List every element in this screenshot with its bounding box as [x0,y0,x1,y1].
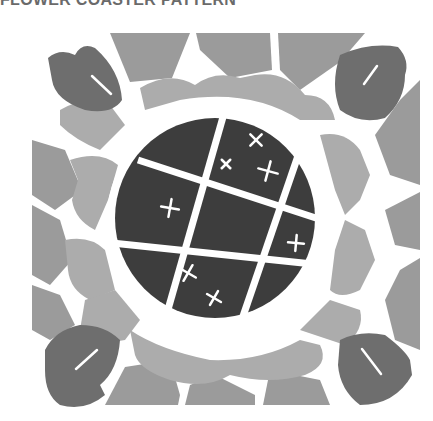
center-disc [107,110,323,326]
leaf-top-left [48,46,122,111]
leaf-bottom-right [338,333,412,405]
leaf-bottom-left [45,325,120,407]
flower-coaster-pattern [0,0,433,421]
